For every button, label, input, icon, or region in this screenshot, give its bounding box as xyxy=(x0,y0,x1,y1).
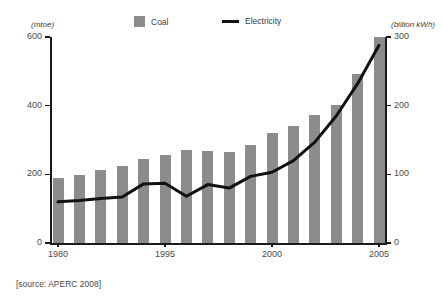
axis-tick xyxy=(45,105,50,106)
axis-tick xyxy=(386,36,391,37)
axis-tick xyxy=(164,243,165,247)
axis-tick xyxy=(271,243,272,247)
axis-tick-label: 300 xyxy=(394,31,409,41)
axis-tick xyxy=(386,242,391,243)
axis-tick xyxy=(45,174,50,175)
axis-tick xyxy=(386,105,391,106)
axis-tick-label: 400 xyxy=(27,100,42,110)
axis-tick xyxy=(45,36,50,37)
axis-tick-label: 200 xyxy=(394,100,409,110)
axis-tick-label: 0 xyxy=(394,237,399,247)
axis-tick-label: 600 xyxy=(27,31,42,41)
chart-figure: Coal Electricity (mtoe) (billion kWh) 02… xyxy=(0,0,443,302)
axis-tick xyxy=(386,174,391,175)
source-note: [source: APERC 2008] xyxy=(16,279,101,289)
electricity-line xyxy=(58,45,379,202)
plot-area: 0200400600 0100200300 1980199520002005 xyxy=(0,0,443,302)
axis-tick-label: 0 xyxy=(37,237,42,247)
axis-tick-label: 1980 xyxy=(48,249,68,259)
axis-tick xyxy=(378,243,379,247)
axis-tick xyxy=(45,242,50,243)
axis-tick-label: 2005 xyxy=(369,249,389,259)
axis-tick-label: 200 xyxy=(27,168,42,178)
axis-tick xyxy=(57,243,58,247)
axis-tick-label: 1995 xyxy=(155,249,175,259)
axis-tick-label: 100 xyxy=(394,168,409,178)
axis-tick-label: 2000 xyxy=(262,249,282,259)
